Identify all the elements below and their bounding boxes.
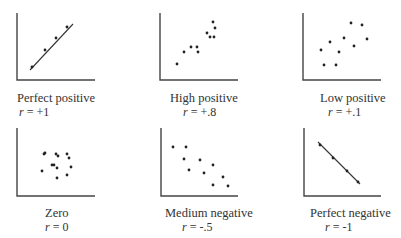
data-point	[197, 51, 200, 54]
data-point	[214, 27, 217, 30]
data-point	[212, 184, 215, 187]
data-point	[209, 36, 212, 39]
panel-zero: Zero r = 0	[17, 128, 95, 234]
r-value: r = +.8	[183, 105, 216, 119]
axes	[303, 13, 381, 80]
data-point	[176, 63, 179, 66]
panel-title: Perfect positive	[17, 91, 96, 105]
panel-title: Low positive	[320, 91, 386, 105]
data-point	[350, 22, 353, 25]
data-point	[357, 181, 360, 184]
data-point	[70, 166, 73, 169]
data-point	[183, 158, 186, 161]
data-point	[66, 153, 69, 156]
fit-line	[318, 142, 360, 184]
data-point	[196, 46, 199, 49]
data-point	[212, 164, 215, 167]
axes	[17, 128, 95, 196]
panel-title: High positive	[170, 91, 238, 105]
data-point	[346, 170, 349, 173]
panel-title: Medium negative	[165, 206, 253, 220]
data-point	[332, 157, 335, 160]
data-point	[212, 21, 215, 24]
data-point	[53, 164, 56, 167]
panel-title: Zero	[45, 206, 69, 220]
data-point	[353, 45, 356, 48]
data-point	[66, 26, 69, 29]
r-value: r = +1	[19, 105, 49, 119]
data-point	[227, 185, 230, 188]
r-value: r = -1	[325, 220, 352, 234]
data-point	[213, 36, 216, 39]
data-point	[56, 177, 59, 180]
data-point	[361, 24, 364, 27]
data-point	[222, 176, 225, 179]
data-point	[206, 32, 209, 35]
data-point	[55, 153, 58, 156]
data-point	[366, 38, 369, 41]
panel-medium-negative: Medium negative r = -.5	[161, 128, 253, 234]
data-point	[188, 169, 191, 172]
r-value: r = 0	[45, 220, 68, 234]
r-value: r = -.5	[182, 220, 212, 234]
fit-line	[30, 24, 73, 70]
data-point	[183, 51, 186, 54]
data-point	[31, 66, 34, 69]
data-point	[320, 49, 323, 52]
panel-low-positive: Low positive r = +.1	[303, 13, 386, 119]
axes	[304, 128, 381, 196]
panel-high-positive: High positive r = +.8	[160, 13, 238, 119]
axes	[160, 13, 238, 80]
axes	[161, 128, 238, 196]
data-point	[319, 144, 322, 147]
data-point	[44, 49, 47, 52]
panel-title: Perfect negative	[310, 206, 391, 220]
data-point	[185, 146, 188, 149]
panel-perfect-positive: Perfect positive r = +1	[17, 13, 96, 119]
data-point	[44, 152, 47, 155]
data-point	[203, 172, 206, 175]
data-point	[338, 51, 341, 54]
data-point	[329, 41, 332, 44]
data-point	[172, 146, 175, 149]
data-point	[57, 155, 60, 158]
data-point	[68, 157, 71, 160]
data-point	[190, 46, 193, 49]
data-point	[56, 167, 59, 170]
panel-perfect-negative: Perfect negative r = -1	[304, 128, 391, 234]
data-point	[199, 159, 202, 162]
axes	[17, 13, 95, 80]
data-point	[335, 64, 338, 67]
data-point	[41, 170, 44, 173]
data-point	[323, 64, 326, 67]
r-value: r = +.1	[328, 105, 361, 119]
correlation-scatter-grid: Perfect positive r = +1 High positive r …	[0, 0, 401, 238]
data-point	[55, 37, 58, 40]
data-point	[343, 37, 346, 40]
data-point	[66, 174, 69, 177]
